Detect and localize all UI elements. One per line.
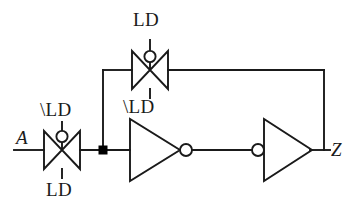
first-inverter-triangle <box>130 119 180 181</box>
feedback-transmission-gate <box>132 40 168 98</box>
input-tg-bubble-icon <box>56 131 67 142</box>
first-inverter-bubble-icon <box>180 144 192 156</box>
output-port-label: Z <box>331 140 342 159</box>
first-inverter <box>130 119 192 181</box>
storage-node-junction <box>99 146 108 155</box>
feedback-tg-bubble-icon <box>144 51 155 62</box>
feedback-gate-bottom-label: \LD <box>123 97 155 116</box>
feedback-gate-top-label: LD <box>133 10 159 29</box>
second-inverter-bubble-icon <box>252 144 264 156</box>
second-inverter-triangle <box>264 119 312 181</box>
input-gate-bottom-label: LD <box>46 180 72 199</box>
circuit-diagram-canvas: \LD LD LD \LD A Z <box>0 0 359 213</box>
second-inverter <box>252 119 312 181</box>
input-port-label: A <box>16 128 28 147</box>
input-transmission-gate <box>44 122 80 178</box>
input-gate-top-label: \LD <box>40 100 72 119</box>
